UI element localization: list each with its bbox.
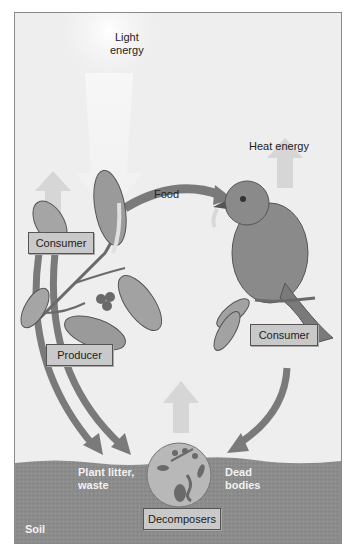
plant-litter-label: Plant litter, waste bbox=[78, 466, 134, 492]
light-energy-label: Light energy bbox=[110, 31, 144, 57]
decomposers-box: Decomposers bbox=[143, 508, 221, 530]
producer-box: Producer bbox=[46, 344, 113, 366]
decomposers-illustration bbox=[147, 443, 211, 507]
heat-energy-label: Heat energy bbox=[249, 140, 309, 153]
food-label: Food bbox=[154, 188, 179, 201]
heat-arrow-decomposers bbox=[163, 381, 199, 433]
diagram-canvas bbox=[15, 13, 341, 543]
dead-bodies-label: Dead bodies bbox=[225, 466, 260, 492]
soil-label: Soil bbox=[25, 523, 45, 536]
dead-bodies-arrow bbox=[240, 368, 287, 443]
consumer-bird-box: Consumer bbox=[250, 324, 318, 346]
diagram-frame: Light energy Heat energy Food Consumer P… bbox=[14, 12, 342, 544]
consumer-plant-box: Consumer bbox=[28, 232, 94, 254]
